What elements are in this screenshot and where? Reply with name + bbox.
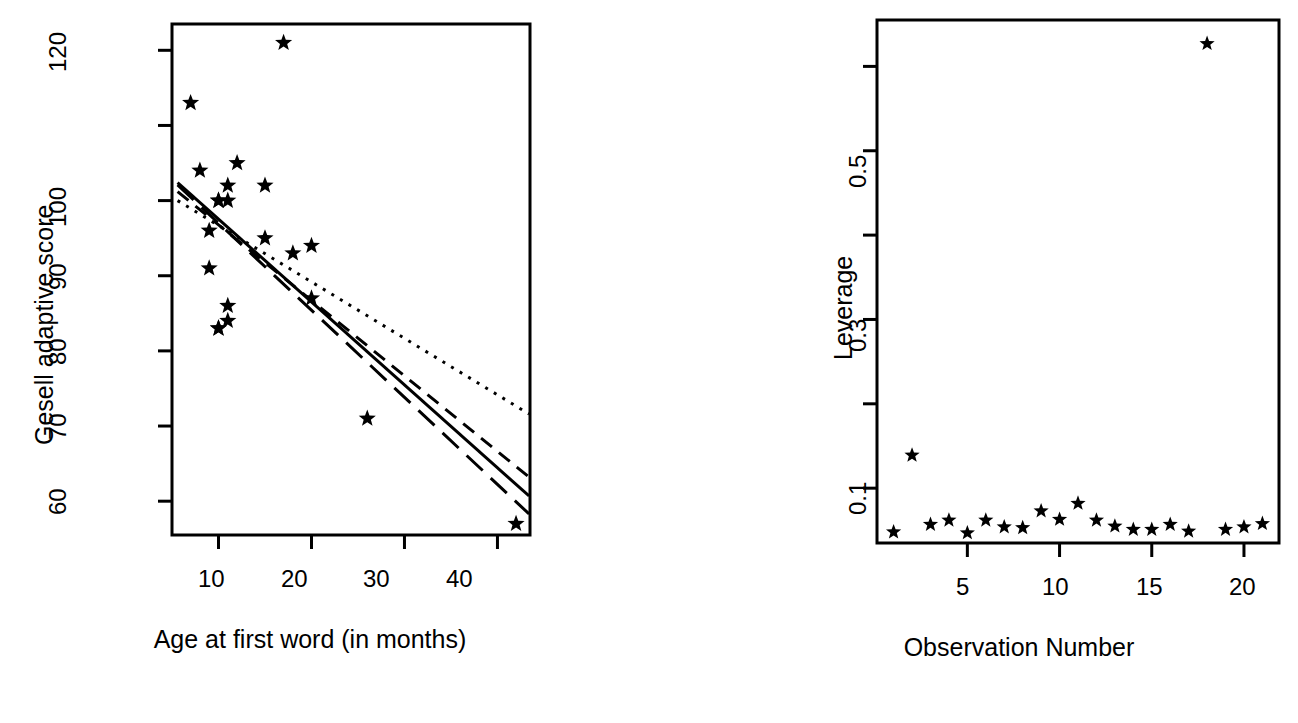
asterisk-marker-glyph (256, 229, 273, 245)
data-point-4 (201, 259, 218, 275)
data-point-9 (1034, 503, 1049, 517)
data-point-19 (1218, 522, 1233, 536)
x-axis-title-age: Age at first word (in months) (20, 625, 600, 654)
data-point-5 (256, 177, 273, 193)
asterisk-marker-glyph (1181, 523, 1196, 537)
data-point-20 (219, 297, 236, 313)
fit-line-ordinary-least-squares (178, 183, 529, 496)
plot-frame (877, 20, 1279, 543)
asterisk-marker-glyph (229, 154, 246, 170)
data-point-12 (1089, 512, 1104, 526)
xtick-label-30: 30 (363, 565, 390, 593)
data-point-18 (1199, 36, 1214, 50)
ytick-label-120: 120 (44, 32, 72, 72)
ytick-label-0-1: 0.1 (844, 482, 872, 515)
data-point-11 (1070, 495, 1085, 509)
asterisk-marker-glyph (997, 519, 1012, 533)
ytick-label-60: 60 (44, 488, 72, 515)
y-axis-title-gesell: Gesell adaptive score (30, 205, 59, 445)
asterisk-marker-glyph (1199, 36, 1214, 50)
asterisk-marker-glyph (1144, 522, 1159, 536)
y-axis-title-leverage: Leverage (829, 256, 858, 360)
data-point-11 (182, 94, 199, 110)
asterisk-marker-glyph (923, 516, 938, 530)
xtick-label-20: 20 (281, 565, 308, 593)
asterisk-marker-glyph (507, 515, 524, 531)
asterisk-marker-glyph (1089, 512, 1104, 526)
asterisk-marker-glyph (886, 524, 901, 538)
data-point-3 (923, 516, 938, 530)
asterisk-marker-glyph (275, 34, 292, 50)
gesell-scatter-plot (0, 0, 649, 723)
data-point-2 (359, 410, 376, 426)
asterisk-marker-glyph (941, 512, 956, 526)
x-axis-title-observation: Observation Number (809, 633, 1229, 662)
asterisk-marker-glyph (1126, 522, 1141, 536)
data-point-1 (886, 524, 901, 538)
data-point-21 (1255, 516, 1270, 530)
asterisk-marker-glyph (1255, 516, 1270, 530)
asterisk-marker-glyph (284, 244, 301, 260)
asterisk-marker-glyph (1163, 516, 1178, 530)
data-point-7 (284, 244, 301, 260)
data-point-20 (1236, 519, 1251, 533)
asterisk-marker-glyph (182, 94, 199, 110)
data-point-9 (191, 162, 208, 178)
data-point-10 (303, 237, 320, 253)
asterisk-marker-glyph (303, 237, 320, 253)
data-point-8 (1015, 520, 1030, 534)
data-points-group (182, 34, 525, 531)
panel-leverage-plot: 0.5 0.3 0.1 5 10 15 20 Leverage Observat… (649, 0, 1298, 723)
asterisk-marker-glyph (191, 162, 208, 178)
data-point-17 (1181, 523, 1196, 537)
figure-canvas: 120 100 90 80 70 60 10 20 30 40 Gesell a… (0, 0, 1298, 723)
asterisk-marker-glyph (960, 525, 975, 539)
panel-gesell-scatter: 120 100 90 80 70 60 10 20 30 40 Gesell a… (0, 0, 649, 723)
leverage-scatter-plot (649, 0, 1298, 723)
asterisk-marker-glyph (1034, 503, 1049, 517)
data-point-14 (1126, 522, 1141, 536)
xtick-label-15: 15 (1136, 573, 1163, 601)
xtick-label-40: 40 (446, 565, 473, 593)
data-point-15 (219, 177, 236, 193)
xtick-label-5: 5 (956, 573, 969, 601)
asterisk-marker-glyph (1236, 519, 1251, 533)
asterisk-marker-glyph (359, 410, 376, 426)
data-point-4 (941, 512, 956, 526)
asterisk-marker-glyph (1070, 495, 1085, 509)
xtick-label-10: 10 (1042, 573, 1069, 601)
asterisk-marker-glyph (256, 177, 273, 193)
data-point-12 (201, 222, 218, 238)
data-point-16 (1163, 516, 1178, 530)
asterisk-marker-glyph (219, 297, 236, 313)
xtick-label-20: 20 (1229, 573, 1256, 601)
data-point-13 (1107, 518, 1122, 532)
ytick-label-0-5: 0.5 (844, 155, 872, 188)
asterisk-marker-glyph (1052, 511, 1067, 525)
data-point-17 (229, 154, 246, 170)
plot-frame (172, 24, 530, 535)
asterisk-marker-glyph (201, 222, 218, 238)
asterisk-marker-glyph (1015, 520, 1030, 534)
data-point-19 (275, 34, 292, 50)
data-point-5 (960, 525, 975, 539)
asterisk-marker-glyph (1218, 522, 1233, 536)
data-point-10 (1052, 511, 1067, 525)
xtick-label-10: 10 (198, 565, 225, 593)
asterisk-marker-glyph (904, 447, 919, 461)
data-point-18 (507, 515, 524, 531)
asterisk-marker-glyph (1107, 518, 1122, 532)
data-point-6 (978, 512, 993, 526)
asterisk-marker-glyph (978, 512, 993, 526)
data-point-1 (256, 229, 273, 245)
data-point-2 (904, 447, 919, 461)
data-point-7 (997, 519, 1012, 533)
data-points-group (886, 36, 1270, 540)
asterisk-marker-glyph (219, 177, 236, 193)
asterisk-marker-glyph (201, 259, 218, 275)
data-point-15 (1144, 522, 1159, 536)
